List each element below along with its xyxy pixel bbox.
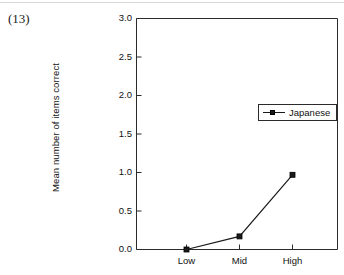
axes-frame bbox=[137, 19, 338, 250]
chart-legend: Japanese bbox=[258, 104, 337, 121]
y-tick-label-2-0: 2.0 bbox=[106, 90, 132, 100]
figure-root: (13) bbox=[0, 0, 344, 275]
x-tick-label-high: High bbox=[271, 255, 315, 266]
y-tick-marks bbox=[137, 19, 142, 250]
legend-entry-label: Japanese bbox=[289, 107, 330, 119]
y-tick-label-0-5: 0.5 bbox=[106, 206, 132, 216]
data-point-mid bbox=[237, 234, 242, 239]
data-point-low bbox=[184, 247, 189, 252]
y-tick-label-0-0: 0.0 bbox=[106, 244, 132, 254]
y-tick-label-3-0: 3.0 bbox=[106, 13, 132, 23]
y-tick-label-2-5: 2.5 bbox=[106, 52, 132, 62]
y-axis-title: Mean number of items correct bbox=[50, 23, 61, 233]
legend-marker-swatch bbox=[270, 110, 275, 115]
series-japanese bbox=[184, 172, 295, 252]
data-point-high bbox=[290, 172, 295, 177]
line-chart: Mean number of items correct 3.0 2.5 2.0… bbox=[0, 0, 344, 275]
x-tick-label-mid: Mid bbox=[218, 255, 262, 266]
y-tick-label-1-5: 1.5 bbox=[106, 129, 132, 139]
x-tick-label-low: Low bbox=[165, 255, 209, 266]
y-tick-label-1-0: 1.0 bbox=[106, 167, 132, 177]
